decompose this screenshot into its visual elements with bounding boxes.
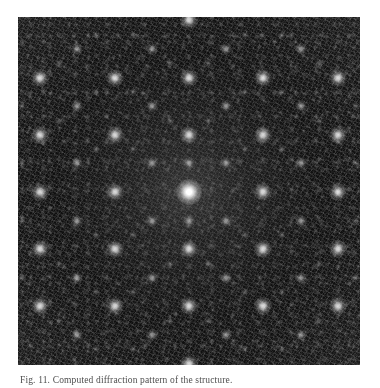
diffraction-spot — [295, 157, 307, 169]
diffraction-spot — [106, 297, 124, 315]
diffraction-spot — [71, 272, 83, 284]
central-beam-spot — [176, 179, 202, 205]
diffraction-spot — [146, 215, 158, 227]
diffraction-spot — [352, 102, 360, 110]
diffraction-spot — [166, 59, 174, 67]
diffraction-spot — [241, 145, 249, 153]
diffraction-spot — [180, 355, 198, 365]
diffraction-spot — [315, 317, 323, 325]
figure-page: Fig. 11. Computed diffraction pattern of… — [0, 0, 380, 388]
diffraction-spot — [315, 117, 323, 125]
diffraction-spot — [129, 31, 137, 39]
diffraction-pattern-panel — [18, 17, 360, 365]
diffraction-spot — [254, 183, 272, 201]
diffraction-spot — [204, 260, 212, 268]
diffraction-spot — [92, 31, 100, 39]
diffraction-spot — [295, 272, 307, 284]
diffraction-spot — [204, 317, 212, 325]
diffraction-spot — [352, 159, 360, 167]
diffraction-spot — [71, 157, 83, 169]
diffraction-spot — [220, 43, 232, 55]
diffraction-spot — [254, 240, 272, 258]
diffraction-spot — [241, 31, 249, 39]
diffraction-spot — [241, 231, 249, 239]
diffraction-spot — [180, 240, 198, 258]
diffraction-spot — [254, 126, 272, 144]
diffraction-spot — [180, 69, 198, 87]
diffraction-spot — [31, 126, 49, 144]
diffraction-spot — [92, 288, 100, 296]
diffraction-spot — [180, 297, 198, 315]
diffraction-spot — [295, 215, 307, 227]
diffraction-spot — [55, 260, 63, 268]
diffraction-spot — [204, 117, 212, 125]
diffraction-spot — [129, 345, 137, 353]
diffraction-spot — [254, 297, 272, 315]
diffraction-spot — [106, 69, 124, 87]
diffraction-spot — [55, 117, 63, 125]
diffraction-spot — [18, 102, 26, 110]
figure-caption-text: Fig. 11. Computed diffraction pattern of… — [20, 375, 232, 385]
diffraction-spot — [31, 240, 49, 258]
diffraction-spot — [183, 157, 195, 169]
diffraction-spot — [220, 329, 232, 341]
diffraction-spot — [278, 88, 286, 96]
diffraction-spot — [180, 126, 198, 144]
diffraction-spot — [55, 59, 63, 67]
diffraction-spot — [241, 88, 249, 96]
diffraction-spot — [329, 297, 347, 315]
diffraction-spot — [329, 240, 347, 258]
diffraction-spot — [278, 288, 286, 296]
diffraction-spot — [295, 100, 307, 112]
diffraction-spot — [254, 69, 272, 87]
diffraction-spot — [278, 231, 286, 239]
diffraction-spot — [31, 183, 49, 201]
diffraction-spot — [146, 157, 158, 169]
diffraction-spot — [146, 100, 158, 112]
diffraction-spot — [166, 317, 174, 325]
diffraction-spot — [31, 69, 49, 87]
diffraction-spot — [220, 215, 232, 227]
diffraction-spot — [106, 183, 124, 201]
diffraction-spot — [71, 43, 83, 55]
diffraction-spot — [220, 272, 232, 284]
diffraction-spot — [329, 183, 347, 201]
diffraction-spot — [315, 260, 323, 268]
diffraction-spot — [18, 159, 26, 167]
diffraction-spot — [295, 43, 307, 55]
diffraction-spot — [71, 100, 83, 112]
diffraction-spot — [71, 215, 83, 227]
diffraction-spot — [92, 145, 100, 153]
diffraction-spot — [180, 17, 198, 29]
diffraction-spot — [92, 345, 100, 353]
diffraction-spot — [92, 88, 100, 96]
diffraction-spot — [55, 317, 63, 325]
diffraction-spot — [295, 329, 307, 341]
diffraction-spot — [146, 329, 158, 341]
diffraction-spot — [166, 260, 174, 268]
diffraction-spot — [204, 59, 212, 67]
diffraction-spot — [71, 329, 83, 341]
diffraction-spot — [18, 274, 26, 282]
diffraction-spot — [183, 215, 195, 227]
diffraction-spot — [352, 274, 360, 282]
figure-caption: Fig. 11. Computed diffraction pattern of… — [20, 374, 360, 388]
diffraction-spot — [352, 217, 360, 225]
diffraction-spot — [220, 100, 232, 112]
diffraction-spot — [106, 240, 124, 258]
diffraction-spot — [129, 88, 137, 96]
diffraction-spot — [329, 69, 347, 87]
diffraction-spot — [278, 31, 286, 39]
diffraction-spot — [106, 126, 124, 144]
diffraction-spot — [31, 297, 49, 315]
diffraction-spot — [241, 345, 249, 353]
diffraction-spot — [220, 157, 232, 169]
diffraction-spot — [146, 272, 158, 284]
diffraction-spot — [166, 117, 174, 125]
diffraction-spot — [129, 288, 137, 296]
diffraction-spot — [315, 59, 323, 67]
diffraction-spot — [146, 43, 158, 55]
diffraction-spot — [329, 126, 347, 144]
diffraction-spot — [278, 145, 286, 153]
diffraction-spot — [241, 288, 249, 296]
